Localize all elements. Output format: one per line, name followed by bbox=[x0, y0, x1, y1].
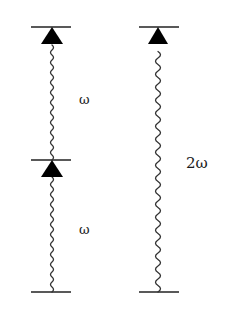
wavy-photon-lower-left bbox=[51, 177, 54, 292]
label-two-omega: 2ω bbox=[186, 156, 208, 171]
wavy-photon-upper-left bbox=[51, 45, 54, 160]
wavy-photon-right bbox=[156, 52, 161, 293]
label-omega-lower: ω bbox=[79, 223, 90, 236]
arrowhead-icon-upper-left bbox=[41, 27, 63, 44]
label-omega-upper: ω bbox=[79, 93, 90, 106]
arrowhead-icon-lower-left bbox=[41, 160, 63, 177]
arrowhead-icon-right bbox=[148, 27, 168, 44]
